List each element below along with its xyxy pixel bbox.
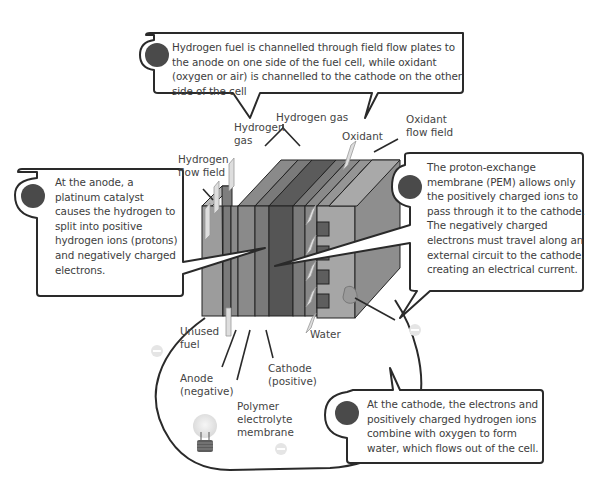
- label-polymer-electrolyte-membrane: Polymer electrolyte membrane: [237, 400, 294, 439]
- light-bulb-icon: [193, 414, 217, 452]
- label-hydrogen-gas-left: Hydrogen gas: [234, 121, 285, 147]
- label-cathode: Cathode (positive): [268, 362, 317, 388]
- callout-left-text: At the anode, a platinum catalyst causes…: [55, 175, 179, 277]
- bullet-icon: [21, 184, 45, 208]
- label-unused-fuel: Unused fuel: [180, 325, 219, 351]
- label-line: Hydrogen: [234, 121, 285, 134]
- label-oxidant: Oxidant: [342, 130, 383, 143]
- label-line: flow field: [406, 126, 453, 139]
- label-line: Oxidant: [406, 113, 453, 126]
- label-hydrogen-gas-top: Hydrogen gas: [276, 111, 348, 124]
- label-line: Hydrogen: [178, 153, 229, 166]
- label-line: (negative): [180, 385, 234, 398]
- label-line: flow field: [178, 166, 229, 179]
- label-water: Water: [310, 328, 341, 341]
- label-line: Anode: [180, 372, 234, 385]
- label-line: Unused: [180, 325, 219, 338]
- unused-fuel-outlet-arrow: [226, 308, 231, 336]
- bullet-icon: [398, 175, 422, 199]
- label-line: Polymer: [237, 400, 294, 413]
- negative-terminal-icon: [409, 324, 421, 336]
- bullet-icon: [335, 401, 359, 425]
- bullet-icon: [145, 43, 169, 67]
- negative-terminal-icon: [151, 345, 163, 357]
- label-line: fuel: [180, 338, 219, 351]
- label-line: electrolyte: [237, 413, 294, 426]
- label-line: gas: [234, 134, 285, 147]
- label-line: membrane: [237, 426, 294, 439]
- negative-terminal-icon: [275, 443, 287, 455]
- callout-right-text: The proton-exchange membrane (PEM) allow…: [427, 160, 585, 277]
- callout-bottom-text: At the cathode, the electrons and positi…: [367, 397, 547, 455]
- callout-top-text: Hydrogen fuel is channelled through fiel…: [172, 40, 464, 98]
- label-hydrogen-flow-field: Hydrogen flow field: [178, 153, 229, 179]
- label-oxidant-flow-field: Oxidant flow field: [406, 113, 453, 139]
- label-anode: Anode (negative): [180, 372, 234, 398]
- label-line: (positive): [268, 375, 317, 388]
- label-line: Cathode: [268, 362, 317, 375]
